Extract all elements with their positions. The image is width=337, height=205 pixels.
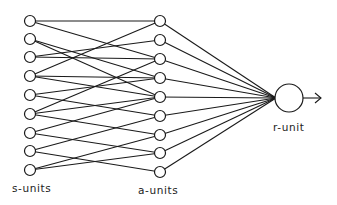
connection-line bbox=[160, 97, 276, 98]
s-unit-node bbox=[25, 146, 36, 157]
s-unit-node bbox=[25, 52, 36, 63]
connection-line bbox=[160, 40, 276, 98]
connection-line bbox=[30, 133, 160, 153]
s-unit-node bbox=[25, 128, 36, 139]
s-unit-node bbox=[25, 90, 36, 101]
a-unit-node bbox=[155, 54, 166, 65]
connection-line bbox=[30, 21, 160, 59]
s-unit-node bbox=[25, 165, 36, 176]
connection-line bbox=[160, 98, 276, 153]
s-unit-node bbox=[25, 109, 36, 120]
connection-line bbox=[30, 114, 160, 135]
a-unit-node bbox=[155, 148, 166, 159]
s-to-a-connections bbox=[30, 21, 160, 172]
s-unit-node bbox=[25, 71, 36, 82]
connection-line bbox=[160, 98, 276, 116]
output-arrow bbox=[303, 93, 321, 103]
connection-line bbox=[160, 98, 276, 135]
s-unit-node bbox=[25, 16, 36, 27]
connection-line bbox=[160, 78, 276, 98]
r-unit-layer bbox=[275, 84, 303, 112]
s-units-layer bbox=[25, 16, 36, 176]
a-unit-node bbox=[155, 16, 166, 27]
a-unit-node bbox=[155, 92, 166, 103]
perceptron-diagram: s-units a-units r-unit bbox=[0, 0, 337, 205]
a-unit-node bbox=[155, 73, 166, 84]
a-unit-node bbox=[155, 130, 166, 141]
connection-line bbox=[30, 153, 160, 170]
connection-line bbox=[30, 116, 160, 151]
a-unit-node bbox=[155, 111, 166, 122]
connection-line bbox=[30, 97, 160, 133]
a-units-label: a-units bbox=[138, 184, 178, 196]
connection-line bbox=[160, 59, 276, 98]
connection-line bbox=[160, 98, 276, 172]
a-unit-node bbox=[155, 35, 166, 46]
a-units-layer bbox=[155, 16, 166, 178]
a-unit-node bbox=[155, 167, 166, 178]
a-to-r-connections bbox=[160, 21, 276, 172]
r-unit-node bbox=[275, 84, 303, 112]
s-unit-node bbox=[25, 34, 36, 45]
r-unit-label: r-unit bbox=[273, 121, 304, 133]
connection-line bbox=[30, 135, 160, 170]
s-units-label: s-units bbox=[12, 182, 51, 194]
connection-line bbox=[160, 21, 276, 98]
connection-line bbox=[30, 76, 160, 78]
